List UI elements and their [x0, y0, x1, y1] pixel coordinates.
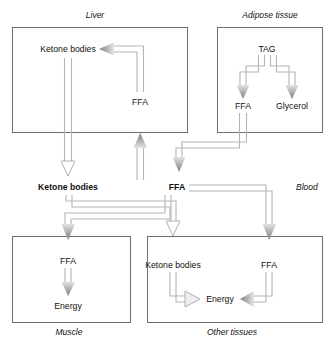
muscle-energy-node: Energy — [54, 302, 82, 311]
adipose-ffa-node: FFA — [235, 102, 251, 111]
adipose-tag-node: TAG — [258, 45, 275, 54]
flow-other-ffa-to-energy — [240, 272, 272, 307]
flow-tag-to-ffa — [237, 55, 265, 99]
liver-section-label: Liver — [86, 11, 104, 20]
flow-tag-to-glycerol — [271, 55, 299, 99]
other-ketone-bodies-node: Ketone bodies — [145, 261, 201, 270]
flow-adipose-ffa-to-blood-ffa — [173, 113, 247, 172]
flow-blood-ffa-to-other-ffa — [189, 185, 276, 240]
other-energy-node: Energy — [206, 295, 234, 304]
muscle-ffa-node: FFA — [60, 257, 76, 266]
adipose-section-label: Adipose tissue — [242, 11, 297, 20]
blood-ffa-node: FFA — [169, 183, 185, 192]
flow-blood-ffa-to-liver-ffa — [134, 133, 148, 180]
flow-liver-ffa-to-ketone-bodies — [99, 43, 144, 93]
flow-liver-ketone-to-blood-ketone — [61, 58, 75, 176]
other-tissues-section-label: Other tissues — [207, 328, 257, 337]
liver-box — [13, 28, 188, 133]
blood-section-label: Blood — [296, 183, 318, 192]
other-ffa-node: FFA — [261, 261, 277, 270]
liver-ffa-node: FFA — [132, 98, 148, 107]
diagram-canvas: Liver Adipose tissue Blood Muscle Other … — [0, 0, 330, 344]
flow-blood-ketone-to-other-ketone — [66, 195, 180, 236]
flow-other-ketone-to-energy — [170, 272, 200, 307]
adipose-glycerol-node: Glycerol — [276, 102, 308, 111]
muscle-section-label: Muscle — [56, 328, 83, 337]
other-tissues-box — [148, 237, 323, 323]
flow-muscle-ffa-to-energy — [62, 268, 76, 296]
blood-ketone-bodies-node: Ketone bodies — [38, 183, 98, 192]
flow-blood-ffa-to-muscle-ffa — [62, 195, 172, 240]
liver-ketone-bodies-node: Ketone bodies — [40, 45, 96, 54]
